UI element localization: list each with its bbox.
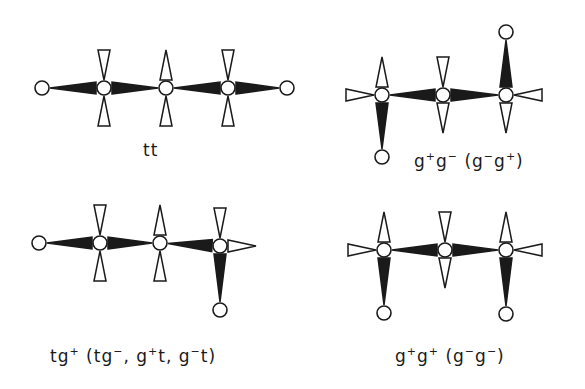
atom-g+g--2 bbox=[499, 88, 513, 102]
open-wedge-tt-3 bbox=[160, 96, 172, 126]
conformation-diagram-canvas bbox=[0, 0, 585, 389]
atom-g+g+-0 bbox=[377, 243, 391, 257]
open-wedge-g+g--2 bbox=[437, 57, 449, 87]
solid-wedge-bond-g+g+-2 bbox=[378, 258, 390, 305]
open-wedge-g+g+-0 bbox=[378, 212, 390, 242]
atom-tt-1 bbox=[97, 81, 111, 95]
solid-wedge-bond-g+g+-3 bbox=[500, 258, 512, 306]
open-wedge-tg+-3 bbox=[154, 251, 166, 281]
solid-wedge-bond-tg+-0 bbox=[47, 237, 92, 249]
label-t-gplus: tg+ (tg−, g+t, g−t) bbox=[50, 345, 216, 366]
open-wedge-g+g+-2 bbox=[439, 212, 451, 242]
atom-tg+-2 bbox=[153, 236, 167, 250]
atom-tg+-3 bbox=[213, 239, 227, 253]
atom-g+g--1 bbox=[436, 88, 450, 102]
open-wedge-g+g--1 bbox=[346, 89, 374, 101]
open-wedge-tt-5 bbox=[222, 96, 234, 126]
open-wedge-g+g+-1 bbox=[348, 244, 376, 256]
atom-g+g+-1 bbox=[438, 243, 452, 257]
open-wedge-g+g+-4 bbox=[500, 212, 512, 242]
solid-wedge-bond-g+g+-0 bbox=[392, 244, 437, 256]
atom-g+g+-3 bbox=[377, 306, 391, 320]
open-wedge-tt-1 bbox=[98, 96, 110, 126]
solid-wedge-bond-g+g--1 bbox=[451, 89, 498, 101]
solid-wedge-bond-tt-2 bbox=[174, 82, 220, 94]
atom-tt-4 bbox=[280, 81, 294, 95]
solid-wedge-bond-tg+-3 bbox=[214, 254, 226, 302]
solid-wedge-bond-g+g--0 bbox=[390, 89, 435, 101]
atom-g+g+-4 bbox=[499, 307, 513, 321]
solid-wedge-bond-tt-0 bbox=[50, 82, 96, 94]
solid-wedge-bond-g+g--2 bbox=[376, 103, 388, 149]
solid-wedge-bond-tg+-2 bbox=[168, 240, 212, 252]
solid-wedge-bond-g+g--3 bbox=[500, 40, 512, 87]
label-gplus-gplus: g+g+ (g−g−) bbox=[395, 345, 505, 366]
open-wedge-tg+-1 bbox=[94, 251, 106, 281]
label-tt: tt bbox=[143, 140, 158, 160]
atom-g+g+-2 bbox=[499, 243, 513, 257]
solid-wedge-bond-tg+-1 bbox=[108, 237, 152, 249]
open-wedge-tt-2 bbox=[160, 50, 172, 80]
open-wedge-tg+-5 bbox=[228, 240, 256, 252]
solid-wedge-bond-tt-1 bbox=[112, 82, 158, 94]
atom-tt-3 bbox=[221, 81, 235, 95]
open-wedge-g+g--0 bbox=[376, 57, 388, 87]
atom-tt-2 bbox=[159, 81, 173, 95]
open-wedge-tg+-2 bbox=[154, 205, 166, 235]
atom-g+g--4 bbox=[499, 25, 513, 39]
atom-tg+-1 bbox=[93, 236, 107, 250]
atom-tt-0 bbox=[35, 81, 49, 95]
open-wedge-g+g--5 bbox=[500, 103, 512, 133]
open-wedge-tt-0 bbox=[98, 50, 110, 80]
solid-wedge-bond-g+g+-1 bbox=[453, 244, 498, 256]
open-wedge-tg+-0 bbox=[94, 205, 106, 235]
open-wedge-g+g--3 bbox=[437, 103, 449, 133]
solid-wedge-bond-tt-3 bbox=[236, 82, 279, 94]
atom-tg+-0 bbox=[32, 236, 46, 250]
atom-g+g--0 bbox=[375, 88, 389, 102]
open-wedge-tg+-4 bbox=[214, 208, 226, 238]
open-wedge-g+g+-3 bbox=[439, 258, 451, 288]
label-gplus-gminus: g+g− (g−g+) bbox=[414, 150, 524, 171]
open-wedge-tt-4 bbox=[222, 50, 234, 80]
open-wedge-g+g+-5 bbox=[514, 244, 542, 256]
atom-tg+-4 bbox=[213, 303, 227, 317]
open-wedge-g+g--4 bbox=[514, 89, 542, 101]
atom-g+g--3 bbox=[375, 150, 389, 164]
